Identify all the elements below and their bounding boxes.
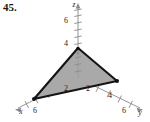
z-outer-tick-label: 6	[64, 16, 68, 25]
coordinate-figure: 6 4 2 2 4 6 6 z x y	[0, 0, 150, 122]
vertex-z-intercept	[76, 47, 79, 50]
vertex-y-intercept	[115, 79, 119, 83]
z-intercept-label: 4	[64, 39, 68, 48]
vertex-x-intercept	[32, 97, 36, 101]
shaded-plane-region	[34, 48, 117, 99]
x-inner-tick-label: 2	[64, 84, 68, 93]
z-axis-label: z	[72, 0, 76, 9]
y-outer-tick-label: 6	[122, 106, 126, 115]
y-axis-label: y	[137, 108, 142, 117]
y-intercept-label: 4	[108, 91, 112, 100]
x-axis-label: x	[18, 107, 23, 116]
y-inner-tick-label: 2	[86, 84, 90, 93]
z-axis	[74, 3, 81, 50]
x-intercept-label: 6	[33, 106, 37, 115]
